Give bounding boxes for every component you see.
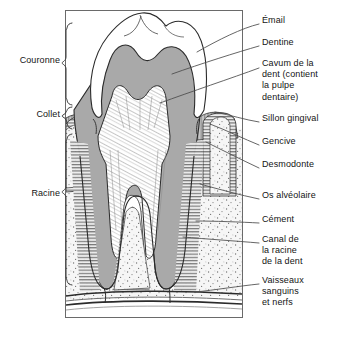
- label-email: Émail: [262, 15, 340, 26]
- label-canal-racine: Canal de la racine de la dent: [262, 234, 340, 268]
- label-sillon-gingival: Sillon gingival: [262, 113, 340, 124]
- label-cavum: Cavum de la dent (contient la pulpe dent…: [262, 58, 340, 103]
- label-os-alveolaire: Os alvéolaire: [262, 190, 340, 201]
- label-collet: Collet: [4, 109, 60, 120]
- neighbour-root-fill: [210, 117, 230, 194]
- label-gencive: Gencive: [262, 136, 340, 147]
- label-racine: Racine: [4, 188, 60, 199]
- label-desmodonte: Desmodonte: [262, 159, 340, 170]
- label-couronne: Couronne: [4, 55, 60, 66]
- label-cement: Cément: [262, 214, 340, 225]
- label-vaisseaux: Vaisseaux sanguins et nerfs: [262, 275, 340, 309]
- diagram-canvas: Couronne Collet Racine Émail Dentine Cav…: [0, 0, 340, 338]
- label-dentine: Dentine: [262, 37, 340, 48]
